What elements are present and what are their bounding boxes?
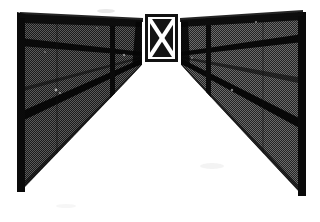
speckle (96, 27, 98, 29)
speckle (59, 92, 61, 94)
scan-smudge (56, 204, 76, 208)
scan-smudge (200, 163, 224, 169)
speckle (55, 89, 58, 92)
speckle (44, 51, 46, 53)
left-vertical-post (17, 12, 25, 192)
right-vertical-post (298, 12, 306, 196)
scan-smudge (97, 9, 115, 13)
scene-svg (0, 0, 320, 222)
speckle (231, 89, 233, 91)
speckle (255, 21, 257, 23)
speckle (191, 57, 193, 59)
speckle (123, 54, 125, 56)
scene-container: Two dark fence walls recede in perspecti… (0, 0, 320, 222)
x-braced-gate (142, 11, 181, 65)
